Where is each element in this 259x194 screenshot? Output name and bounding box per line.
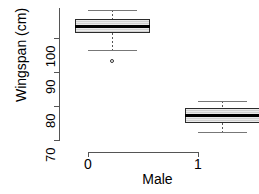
- x-tick-label-0: 0: [73, 156, 103, 172]
- y-tick-mark-80: [54, 106, 59, 107]
- whisker-upper-0: [112, 10, 113, 19]
- y-tick-mark-70: [54, 140, 59, 141]
- x-axis-line: [88, 152, 198, 153]
- median-line-0: [75, 25, 150, 28]
- whisker-cap-upper-0: [88, 10, 137, 11]
- outlier-point-0: [110, 59, 114, 63]
- whisker-cap-lower-1: [198, 132, 247, 133]
- y-tick-mark-90: [54, 72, 59, 73]
- y-axis-line: [59, 8, 60, 141]
- whisker-cap-upper-1: [198, 101, 247, 102]
- whisker-upper-1: [222, 101, 223, 108]
- median-line-1: [185, 114, 259, 117]
- whisker-lower-0: [112, 33, 113, 50]
- x-tick-label-1: 1: [183, 156, 213, 172]
- boxplot-chart: Wingspan (cm) 100 90 80 70 0 1 Male: [0, 0, 259, 194]
- x-axis-label: Male: [142, 171, 172, 187]
- y-axis-label: Wingspan (cm): [13, 0, 29, 120]
- y-tick-mark-100: [54, 38, 59, 39]
- whisker-cap-lower-0: [88, 50, 137, 51]
- whisker-lower-1: [222, 123, 223, 132]
- x-axis-label-wrap: Male: [0, 171, 259, 187]
